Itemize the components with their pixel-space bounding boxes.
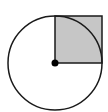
circle-square-diagram: [0, 0, 108, 112]
center-point: [52, 60, 59, 67]
